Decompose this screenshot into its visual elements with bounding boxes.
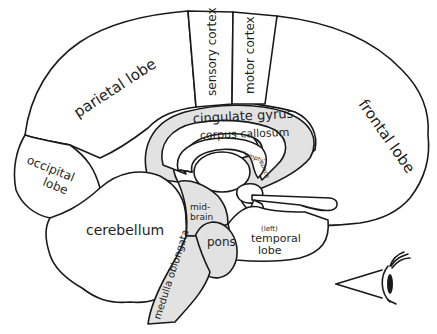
- eye-icon: [336, 252, 410, 304]
- label-cerebellum: cerebellum: [86, 222, 164, 238]
- label-pons: pons: [207, 235, 236, 249]
- label-motor-cortex: motor cortex: [243, 16, 257, 94]
- label-sensory-cortex: sensory cortex: [205, 7, 219, 96]
- brain-diagram: parietal lobe sensory cortex motor corte…: [0, 0, 437, 334]
- label-temporal-lobe: lobe: [258, 244, 282, 257]
- label-midbrain: mid-: [190, 202, 210, 212]
- label-brain: brain: [190, 212, 213, 222]
